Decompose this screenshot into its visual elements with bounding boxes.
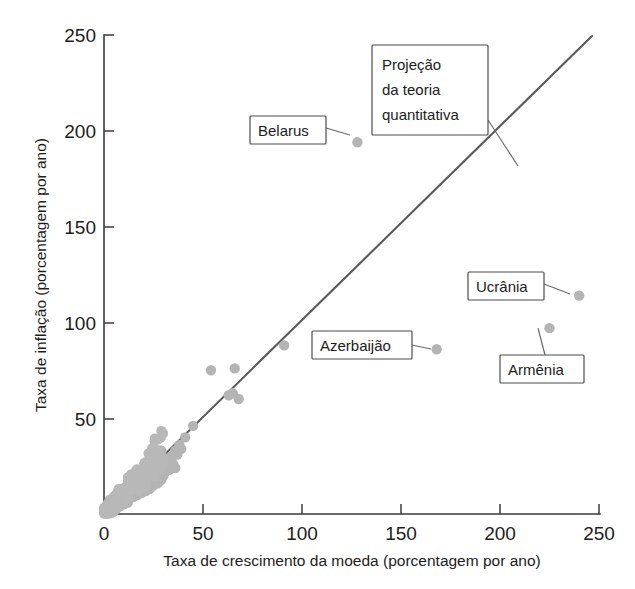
callout-belarus: Belarus — [250, 116, 350, 144]
callout-ucrania: Ucrânia — [468, 272, 570, 300]
x-tick-label-200: 200 — [484, 523, 516, 544]
y-tick-label-50: 50 — [75, 409, 96, 430]
x-tick-label-0: 0 — [99, 523, 110, 544]
y-tick-label-150: 150 — [64, 217, 96, 238]
callout-projecao-line3: quantitativa — [382, 106, 459, 123]
x-tick-label-100: 100 — [286, 523, 318, 544]
data-point — [544, 323, 554, 333]
data-point — [110, 500, 120, 510]
data-point — [170, 463, 180, 473]
data-points-layer — [99, 137, 584, 519]
data-point — [229, 363, 239, 373]
y-axis-title: Taxa de inflação (porcentagem por ano) — [32, 138, 49, 412]
data-point — [146, 462, 156, 472]
leader-line-projecao — [488, 120, 518, 166]
data-point — [233, 394, 243, 404]
y-tick-label-250: 250 — [64, 25, 96, 46]
data-point — [120, 495, 130, 505]
callout-azerbaijao: Azerbaijão — [312, 331, 431, 359]
data-point — [574, 290, 584, 300]
data-point — [206, 365, 216, 375]
data-point — [224, 390, 234, 400]
x-tick-marks — [203, 504, 599, 514]
leader-line-azerbaijao — [412, 345, 431, 349]
data-point — [352, 137, 362, 147]
callout-armenia-label: Armênia — [508, 361, 565, 378]
data-point — [279, 340, 289, 350]
x-tick-label-50: 50 — [192, 523, 213, 544]
leader-line-armenia — [538, 328, 545, 355]
data-point — [137, 472, 147, 482]
data-point — [156, 426, 166, 436]
data-point — [127, 482, 137, 492]
data-point — [100, 506, 110, 516]
data-point — [188, 421, 198, 431]
callout-ucrania-label: Ucrânia — [476, 278, 528, 295]
leader-line-belarus — [326, 128, 350, 135]
chart-svg: 250 200 150 100 50 0 50 100 150 200 250 … — [0, 0, 635, 589]
leader-line-ucrania — [544, 284, 570, 294]
y-tick-marks — [104, 35, 114, 419]
x-tick-label-250: 250 — [583, 523, 615, 544]
scatter-chart-figure: 250 200 150 100 50 0 50 100 150 200 250 … — [0, 0, 635, 589]
y-tick-label-200: 200 — [64, 121, 96, 142]
callout-projecao-line2: da teoria — [382, 81, 441, 98]
callout-belarus-label: Belarus — [258, 122, 309, 139]
y-tick-label-100: 100 — [64, 313, 96, 334]
data-point — [176, 444, 186, 454]
x-axis-title: Taxa de crescimento da moeda (porcentage… — [163, 552, 540, 569]
x-tick-label-150: 150 — [385, 523, 417, 544]
callout-projecao-line1: Projeção — [382, 56, 441, 73]
data-point — [431, 344, 441, 354]
callout-armenia: Armênia — [500, 328, 584, 383]
callout-projecao: Projeção da teoria quantitativa — [372, 45, 518, 166]
callout-azerbaijao-label: Azerbaijão — [320, 337, 391, 354]
